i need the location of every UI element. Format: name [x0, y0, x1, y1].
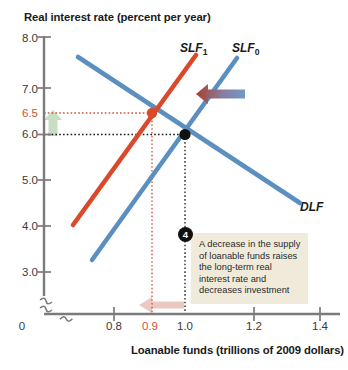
- curve-dlf: [78, 57, 300, 203]
- chart-figure: Real interest rate (percent per year) Lo…: [0, 0, 348, 370]
- funds-decrease-arrow: [139, 297, 184, 313]
- curve-slf0: [92, 58, 237, 260]
- equilibrium-point-new: [147, 108, 157, 118]
- rate-increase-arrow: [44, 110, 62, 136]
- callout-text: A decrease in the supply of loanable fun…: [199, 239, 300, 295]
- chart-plot-area: [0, 0, 348, 370]
- callout-box: A decrease in the supply of loanable fun…: [191, 233, 308, 304]
- equilibrium-point-original: [179, 129, 190, 140]
- callout-number-badge: 4: [178, 227, 193, 242]
- guide-lines: [44, 113, 185, 314]
